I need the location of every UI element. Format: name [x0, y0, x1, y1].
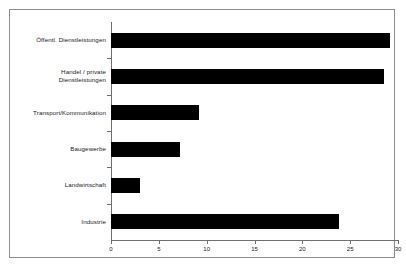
bar-row: Landwirtschaft — [111, 167, 398, 203]
category-label: Landwirtschaft — [0, 181, 106, 189]
x-axis-tick-label: 5 — [157, 246, 160, 252]
x-axis-tick — [350, 240, 351, 244]
bar-row: Handel / private Dienstleistungen — [111, 58, 398, 94]
bar — [111, 214, 339, 229]
category-label: Handel / private Dienstleistungen — [0, 68, 106, 84]
x-axis-tick-label: 10 — [203, 246, 210, 252]
bar — [111, 178, 140, 193]
category-label: Transport/Kommunikation — [0, 109, 106, 117]
x-axis-tick-label: 0 — [109, 246, 112, 252]
x-axis-tick — [255, 240, 256, 244]
x-axis-tick — [111, 240, 112, 244]
bar-row: Öffentl. Dienstleistungen — [111, 22, 398, 58]
bar-row: Transport/Kommunikation — [111, 95, 398, 131]
x-axis-tick-label: 20 — [299, 246, 306, 252]
bar — [111, 69, 384, 84]
bar — [111, 33, 390, 48]
category-label: Öffentl. Dienstleistungen — [0, 36, 106, 44]
bar-chart-figure: 051015202530 Öffentl. DienstleistungenHa… — [0, 0, 406, 273]
bar — [111, 142, 180, 157]
plot-area: Öffentl. DienstleistungenHandel / privat… — [111, 22, 398, 240]
bar — [111, 105, 199, 120]
category-label: Baugewerbe — [0, 145, 106, 153]
x-axis-tick — [302, 240, 303, 244]
x-axis-tick — [159, 240, 160, 244]
category-label: Industrie — [0, 218, 106, 226]
bar-row: Industrie — [111, 204, 398, 240]
x-axis-tick — [207, 240, 208, 244]
x-axis-tick-label: 15 — [251, 246, 258, 252]
x-axis-tick-label: 30 — [395, 246, 402, 252]
bar-row: Baugewerbe — [111, 131, 398, 167]
x-axis-tick — [398, 240, 399, 244]
x-axis-tick-label: 25 — [347, 246, 354, 252]
